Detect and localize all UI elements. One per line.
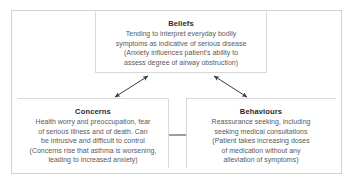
node-behaviours: Behaviours Reassurance seeking, includin…: [186, 98, 336, 168]
node-behaviours-line: seeking medical consultations: [189, 127, 333, 137]
node-concerns-line: leading to increased anxiety): [20, 155, 166, 165]
node-concerns-body: Health worry and preoccupation, fear of …: [18, 117, 168, 165]
node-behaviours-line: alleviation of symptoms): [189, 155, 333, 165]
node-behaviours-title: Behaviours: [187, 107, 335, 117]
node-behaviours-line: (Patient takes increasing doses: [189, 136, 333, 146]
node-behaviours-line: of medication without any: [189, 146, 333, 156]
node-beliefs-line: assess degree of airway obstruction): [98, 58, 264, 68]
node-concerns-line: Health worry and preoccupation, fear: [20, 117, 166, 127]
node-beliefs-body: Tending to interpret everyday bodily sym…: [96, 29, 266, 67]
node-beliefs: Beliefs Tending to interpret everyday bo…: [95, 11, 267, 73]
node-concerns-line: (Concerns rise that asthma is worsening,: [20, 146, 166, 156]
node-concerns-title: Concerns: [18, 107, 168, 117]
node-beliefs-line: Tending to interpret everyday bodily: [98, 29, 264, 39]
node-behaviours-body: Reassurance seeking, including seeking m…: [187, 117, 335, 165]
node-concerns-line: of serious illness and of death. Can: [20, 127, 166, 137]
node-behaviours-line: Reassurance seeking, including: [189, 117, 333, 127]
node-beliefs-line: (Anxiety influences patient's ability to: [98, 48, 264, 58]
node-concerns: Concerns Health worry and preoccupation,…: [17, 98, 169, 168]
node-concerns-line: be intrusive and difficult to control: [20, 136, 166, 146]
figure-container: Beliefs Tending to interpret everyday bo…: [0, 0, 353, 185]
node-beliefs-line: symptoms as indicative of serious diseas…: [98, 39, 264, 49]
node-beliefs-title: Beliefs: [96, 19, 266, 29]
